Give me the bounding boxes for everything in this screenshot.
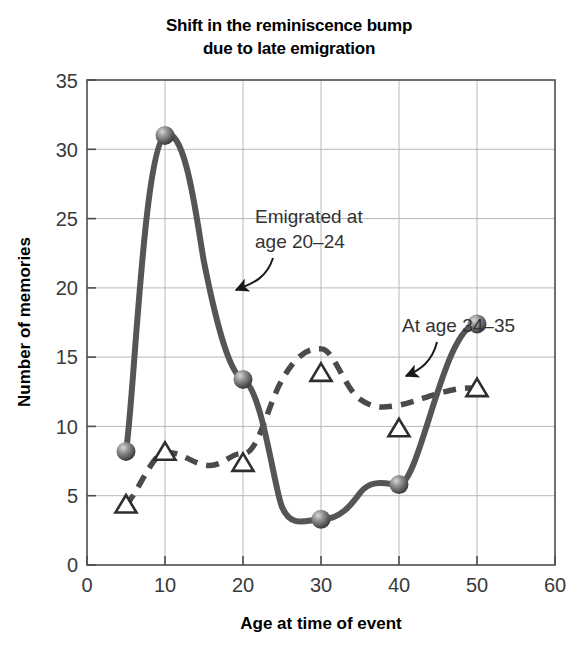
y-tick-label: 20 <box>56 277 78 299</box>
x-axis-title: Age at time of event <box>240 614 402 633</box>
x-tick-label: 0 <box>81 574 92 596</box>
x-tick-label: 30 <box>310 574 332 596</box>
x-tick-label: 60 <box>544 574 566 596</box>
y-tick-label: 0 <box>67 554 78 576</box>
y-tick-label: 25 <box>56 208 78 230</box>
y-tick-label: 35 <box>56 70 78 92</box>
y-tick-label: 15 <box>56 346 78 368</box>
y-tick-label: 5 <box>67 485 78 507</box>
annotation-label: At age 34–35 <box>402 315 515 336</box>
data-point-marker <box>390 475 409 494</box>
chart-figure: Shift in the reminiscence bump due to la… <box>0 0 578 647</box>
x-tick-label: 50 <box>466 574 488 596</box>
x-tick-label: 40 <box>388 574 410 596</box>
annotation-label-line2: age 20–24 <box>255 231 345 252</box>
data-point-marker <box>156 126 175 145</box>
data-point-marker <box>117 442 136 461</box>
y-tick-label: 30 <box>56 139 78 161</box>
plot-area: 35 30 25 20 15 10 5 0 0 10 20 30 40 50 6… <box>0 0 578 647</box>
x-tick-label: 20 <box>232 574 254 596</box>
data-point-marker <box>234 370 253 389</box>
x-tick-label: 10 <box>154 574 176 596</box>
x-axis-tick-labels: 0 10 20 30 40 50 60 <box>81 574 566 596</box>
y-tick-label: 10 <box>56 416 78 438</box>
annotation-label-line1: Emigrated at <box>255 206 363 227</box>
y-axis-title: Number of memories <box>15 237 34 407</box>
y-axis-tick-labels: 35 30 25 20 15 10 5 0 <box>56 70 78 576</box>
data-point-marker <box>312 510 331 529</box>
